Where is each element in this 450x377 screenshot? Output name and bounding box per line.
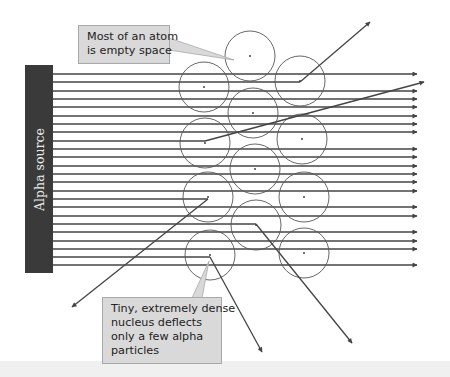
alpha-source-label: Alpha source — [32, 128, 47, 211]
nucleus-dot — [207, 196, 209, 198]
deflected-path — [300, 22, 370, 82]
deflected-path — [256, 224, 352, 343]
callout-line: Most of an atom — [87, 30, 161, 44]
callout-nucleus: Tiny, extremely dense nucleus deflects o… — [102, 297, 222, 364]
nucleus-dot — [204, 142, 206, 144]
nucleus-dot — [303, 252, 305, 254]
callout-pointer-top — [169, 38, 234, 60]
nucleus-dot — [209, 254, 211, 256]
alpha-beams — [53, 74, 417, 265]
callout-line: particles — [111, 344, 213, 358]
atoms — [179, 31, 329, 280]
callout-line: Tiny, extremely dense — [111, 302, 213, 316]
nucleus-dot — [303, 196, 305, 198]
callout-line: is empty space — [87, 44, 161, 58]
alpha-source: Alpha source — [25, 65, 53, 273]
nucleus-dot — [301, 138, 303, 140]
callout-line: only a few alpha — [111, 330, 213, 344]
scattering-diagram — [0, 0, 450, 377]
deflected-path — [72, 199, 208, 307]
nucleus-dot — [203, 86, 205, 88]
nucleus-dot — [252, 112, 254, 114]
nucleus-dot — [249, 55, 251, 57]
callout-line: nucleus deflects — [111, 316, 213, 330]
nucleus-dot — [254, 168, 256, 170]
callout-empty-space: Most of an atom is empty space — [78, 25, 170, 64]
